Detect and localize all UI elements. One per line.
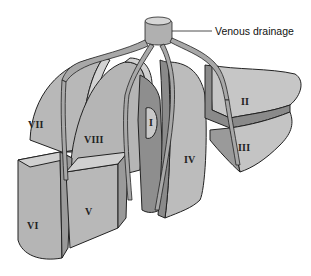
segment-label-ii: II xyxy=(241,96,249,107)
segment-label-vii: VII xyxy=(28,119,44,130)
venous-drainage-label: Venous drainage xyxy=(215,25,294,37)
diagram-canvas xyxy=(0,0,311,276)
segment-label-iv: IV xyxy=(184,154,196,165)
segment-label-v: V xyxy=(85,206,92,217)
segment-label-vi: VI xyxy=(27,220,39,231)
segment-label-iii: III xyxy=(238,142,250,153)
liver-segments-diagram: Venous drainage I II III IV V VI VII VII… xyxy=(0,0,311,276)
segment-label-i: I xyxy=(149,117,153,128)
segment-vi-shape xyxy=(18,152,62,259)
segment-label-viii: VIII xyxy=(84,134,104,145)
